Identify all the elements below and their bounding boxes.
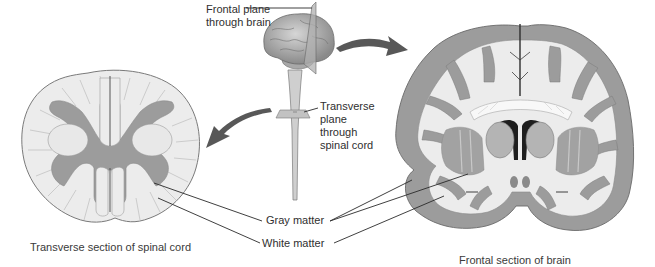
nervous-system-sections-diagram: Frontal plane through brain Transverse p… bbox=[0, 0, 655, 267]
white-matter-label: White matter bbox=[262, 237, 324, 250]
brain-frontal-section bbox=[396, 24, 634, 231]
frontal-plane-label-line-2: through brain bbox=[206, 16, 271, 29]
transverse-plane-label-line-1: Transverse bbox=[320, 100, 375, 113]
spinal-cord-section bbox=[22, 70, 200, 222]
arrow-to-brain-section bbox=[336, 36, 408, 56]
gray-matter-label: Gray matter bbox=[266, 214, 324, 227]
brain-section-caption: Frontal section of brain bbox=[459, 254, 571, 267]
transverse-plane-label: Transverse plane through spinal cord bbox=[320, 100, 375, 152]
spinal-cord-caption: Transverse section of spinal cord bbox=[30, 241, 191, 254]
frontal-plane-label-line-1: Frontal plane bbox=[206, 3, 271, 16]
transverse-plane-label-line-3: through bbox=[320, 126, 375, 139]
frontal-plane-label: Frontal plane through brain bbox=[206, 3, 271, 29]
transverse-plane-label-line-4: spinal cord bbox=[320, 139, 375, 152]
transverse-plane-label-line-2: plane bbox=[320, 113, 375, 126]
arrow-to-spinal-section bbox=[206, 108, 272, 148]
